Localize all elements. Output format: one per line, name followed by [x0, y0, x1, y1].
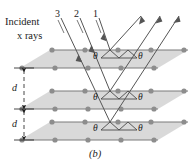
spacing-label-lower: d	[12, 119, 17, 129]
figure-container: Incident x rays 3 2 1 θ θ θ θ θ θ d d (b…	[0, 0, 194, 164]
angle-label-middle-right: θ	[138, 93, 143, 103]
ray-number-1: 1	[93, 9, 98, 19]
plane-top-slab	[20, 50, 188, 68]
angle-label-top-left: θ	[93, 52, 98, 62]
angle-label-bottom-left: θ	[93, 124, 98, 134]
spacing-label-upper: d	[12, 83, 17, 93]
figure-caption: (b)	[89, 149, 101, 160]
crystal-plane-top	[19, 47, 188, 70]
crystal-plane-bottom	[19, 119, 188, 142]
incident-label-line1: Incident	[5, 17, 39, 28]
ray-number-leaders	[58, 20, 101, 33]
angle-label-bottom-right: θ	[138, 124, 143, 134]
plane-middle-slab	[20, 91, 188, 109]
incident-label-line2: x rays	[17, 31, 42, 42]
plane-bottom-slab	[20, 122, 188, 140]
diffracted-ray-1	[110, 16, 145, 50]
incident-ray-1	[99, 18, 110, 50]
ray-number-2: 2	[74, 9, 79, 19]
angle-label-top-right: θ	[138, 52, 143, 62]
angle-label-middle-left: θ	[93, 93, 98, 103]
ray-number-3: 3	[55, 9, 60, 19]
